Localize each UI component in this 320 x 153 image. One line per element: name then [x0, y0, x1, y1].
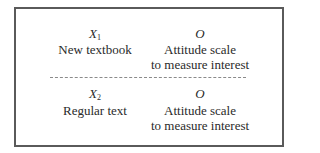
treatment-label-2: Regular text: [40, 103, 150, 118]
observation-label-2-line1: Attitude scale: [140, 103, 260, 118]
group-divider: [50, 77, 246, 78]
treatment-label-1: New textbook: [40, 42, 150, 57]
observation-label-1-line1: Attitude scale: [140, 42, 260, 57]
observation-symbol-2: O: [140, 86, 260, 101]
observation-label-1-line2: to measure interest: [140, 57, 260, 72]
observation-label-2-line2: to measure interest: [140, 118, 260, 133]
observation-symbol-1: O: [140, 26, 260, 41]
